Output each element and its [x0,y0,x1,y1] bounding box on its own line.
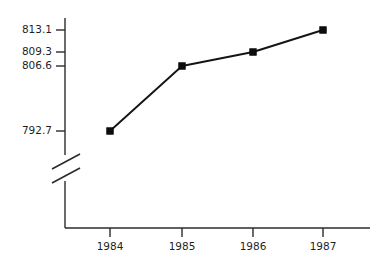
chart-canvas: 813.1 809.3 806.6 792.7 1984 1985 1986 1… [0,0,377,271]
y-tick-label-806-6: 806.6 [22,59,52,71]
data-marker-group [107,27,326,134]
x-tick-label-1985: 1985 [169,240,196,252]
line-chart: 813.1 809.3 806.6 792.7 1984 1985 1986 1… [0,0,377,271]
y-tick-label-809-3: 809.3 [22,45,52,57]
x-tick-label-1987: 1987 [310,240,337,252]
x-tick-label-1984: 1984 [97,240,124,252]
data-point-1987 [320,27,326,33]
data-point-1986 [250,49,256,55]
x-tick-label-1986: 1986 [240,240,267,252]
axis-break-icon [52,154,80,183]
data-series-line [110,30,323,131]
y-tick-label-792-7: 792.7 [22,124,52,136]
data-point-1985 [179,63,185,69]
y-tick-label-813-1: 813.1 [22,23,52,35]
data-point-1984 [107,128,113,134]
